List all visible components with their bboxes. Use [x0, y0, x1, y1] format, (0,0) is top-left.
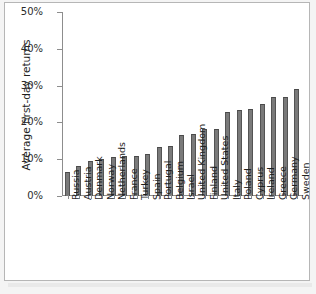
x-axis-category-label: Spain [152, 173, 162, 200]
category-label-group: RussiaAustriaDenmarkNorwayNetherlandsFra… [62, 200, 303, 282]
x-axis-category-label: Norway [106, 164, 116, 200]
bar-slot [62, 12, 73, 196]
x-axis-category-label: Austria [83, 166, 93, 200]
y-axis-tick-label: 40% [21, 44, 43, 54]
x-axis-category-label: France [129, 168, 139, 200]
x-axis-category-label: Turkey [140, 169, 150, 200]
x-axis-category-label: Greece [278, 166, 288, 200]
x-axis-category-label: Denmark [94, 156, 104, 200]
y-axis-tick [57, 196, 62, 197]
x-axis-category-label: Italy [232, 179, 242, 200]
y-axis-tick-label: 20% [21, 117, 43, 127]
x-axis-category-label: Belgium [175, 161, 185, 200]
x-axis-category-label: Cyprus [255, 167, 265, 200]
x-axis-category-label: Israel [186, 174, 196, 200]
bar [65, 172, 70, 196]
y-axis-tick-label: 10% [21, 154, 43, 164]
y-axis-tick-label: 30% [21, 81, 43, 91]
figure-frame: Average first-day returns 0%10%20%30%40%… [4, 2, 310, 281]
x-axis-category-label: Poland [243, 168, 253, 200]
x-axis-category-label: United Kingdom [197, 124, 207, 200]
x-axis-tick [68, 195, 69, 199]
figure-root: Average first-day returns 0%10%20%30%40%… [0, 0, 316, 294]
x-axis-category-label: Finland [209, 166, 219, 200]
x-axis-category-label: Ireland [266, 167, 276, 200]
y-axis-tick-label: 50% [21, 7, 43, 17]
x-axis-category-label: Germany [289, 156, 299, 200]
x-axis-category-label: Netherlands [117, 142, 127, 200]
plot-area: Average first-day returns 0%10%20%30%40%… [5, 3, 311, 282]
x-axis-category-label: Russia [71, 169, 81, 200]
x-axis-category-label: Sweden [301, 162, 311, 200]
figure-shadow [8, 283, 312, 287]
x-axis-category-label: Portugal [163, 161, 173, 200]
y-axis-tick-label: 0% [27, 191, 43, 201]
x-axis-category-label: United States [220, 136, 230, 200]
